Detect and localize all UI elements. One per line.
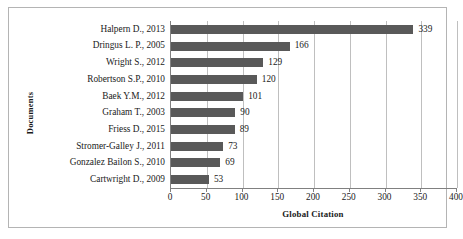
category-label: Gonzalez Bailon S., 2010: [39, 155, 170, 172]
x-tick-label: 400: [449, 193, 463, 202]
bar-row: 73: [171, 138, 456, 155]
x-axis-ticks: 050100150200250300350400: [170, 188, 456, 193]
bar-value-label: 73: [228, 142, 237, 151]
gridline: [457, 21, 458, 188]
bar: [171, 75, 257, 84]
x-tick-label: 300: [378, 193, 392, 202]
bar: [171, 58, 263, 67]
bar: [171, 158, 220, 167]
bar-row: 339: [171, 21, 456, 38]
x-axis-title: Global Citation: [170, 209, 456, 219]
bars-layer: 339 166 129 120 101: [171, 21, 456, 188]
category-label: Wright S., 2012: [39, 54, 170, 71]
bar: [171, 108, 235, 117]
bar: [171, 175, 209, 184]
x-tick-label: 350: [413, 193, 427, 202]
bar-row: 53: [171, 171, 456, 188]
bar-row: 89: [171, 121, 456, 138]
y-axis-title: Documents: [23, 68, 37, 158]
bar-row: 69: [171, 155, 456, 172]
bar: [171, 92, 243, 101]
x-tick-label: 0: [168, 193, 173, 202]
bar-value-label: 101: [248, 92, 262, 101]
category-label: Friess D., 2015: [39, 121, 170, 138]
chart-frame: Documents Halpern D., 2013 Dringus L. P.…: [8, 7, 447, 228]
bar-value-label: 53: [214, 175, 223, 184]
category-label: Dringus L. P., 2005: [39, 38, 170, 55]
x-tick-label: 150: [270, 193, 284, 202]
bar-value-label: 89: [240, 125, 249, 134]
bar-row: 166: [171, 38, 456, 55]
bar-value-label: 120: [262, 75, 276, 84]
bar-row: 120: [171, 71, 456, 88]
x-tick-label: 50: [201, 193, 210, 202]
x-tick-label: 100: [235, 193, 249, 202]
category-axis: Halpern D., 2013 Dringus L. P., 2005 Wri…: [39, 21, 170, 188]
bar: [171, 125, 235, 134]
plot-area: 339 166 129 120 101: [170, 21, 456, 188]
bar-row: 129: [171, 54, 456, 71]
x-tick-label: 200: [306, 193, 320, 202]
bar-value-label: 339: [418, 25, 432, 34]
bar-value-label: 69: [225, 158, 234, 167]
category-label: Stromer-Galley J., 2011: [39, 138, 170, 155]
bar-value-label: 90: [240, 108, 249, 117]
category-label: Robertson S.P., 2010: [39, 71, 170, 88]
category-label: Cartwright D., 2009: [39, 171, 170, 188]
category-label: Baek Y.M., 2012: [39, 88, 170, 105]
x-tick-label: 250: [342, 193, 356, 202]
category-label: Graham T., 2003: [39, 105, 170, 122]
bar-row: 101: [171, 88, 456, 105]
bar-value-label: 129: [268, 58, 282, 67]
bar-row: 90: [171, 105, 456, 122]
y-axis-title-text: Documents: [25, 92, 35, 134]
bar: [171, 142, 223, 151]
category-label: Halpern D., 2013: [39, 21, 170, 38]
plot-inner: 339 166 129 120 101: [170, 21, 456, 188]
bar-value-label: 166: [295, 41, 309, 50]
bar: [171, 25, 413, 34]
bar: [171, 42, 290, 51]
